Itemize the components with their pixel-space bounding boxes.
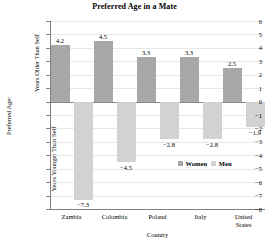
y-tick-mark <box>46 102 50 103</box>
bar-women <box>137 57 156 101</box>
y-tick-mark <box>46 48 50 49</box>
chart-legend: Women Men <box>178 159 232 168</box>
y-axis-line <box>50 21 51 210</box>
y-tick-mark <box>46 115 50 116</box>
bar-men <box>160 102 179 140</box>
bar-value-label-men: −7.3 <box>68 201 98 208</box>
bar-men <box>203 102 222 140</box>
y-tick-label: −8 <box>225 206 269 213</box>
bar-value-label-women: 3.3 <box>131 49 161 56</box>
y-tick-label: 3 <box>225 58 269 65</box>
y-tick-label: 2 <box>225 71 269 78</box>
legend-label-women: Women <box>186 160 208 167</box>
y-tick-mark <box>46 88 50 89</box>
y-tick-label: −5 <box>225 165 269 172</box>
y-tick-mark <box>46 169 50 170</box>
y-tick-mark <box>46 34 50 35</box>
y-tick-label: 0 <box>225 98 269 105</box>
x-axis-label: Country <box>50 231 265 239</box>
y-axis-label-outer: Preferred Age: <box>5 61 13 171</box>
bar-value-label-women: 4.5 <box>88 33 118 40</box>
y-tick-label: 4 <box>225 44 269 51</box>
y-tick-label: 6 <box>225 18 269 25</box>
legend-swatch-women-icon <box>178 161 183 166</box>
y-tick-mark <box>46 75 50 76</box>
legend-item-women: Women <box>178 160 207 167</box>
y-tick-mark <box>46 196 50 197</box>
y-tick-mark <box>46 61 50 62</box>
bar-men <box>74 102 93 200</box>
y-tick-mark <box>46 182 50 183</box>
y-tick-label: −4 <box>225 152 269 159</box>
y-tick-label: −6 <box>225 179 269 186</box>
y-axis-label-upper: Years Older Than Self <box>33 15 41 111</box>
bar-value-label-men: −4.5 <box>111 164 141 171</box>
y-tick-label: 1 <box>225 85 269 92</box>
y-tick-mark <box>46 128 50 129</box>
y-tick-label: −3 <box>225 138 269 145</box>
x-tick-label: UnitedStates <box>216 213 270 228</box>
y-tick-mark <box>46 21 50 22</box>
chart-title: Preferred Age in a Mate <box>0 2 269 12</box>
y-tick-label: −1 <box>225 112 269 119</box>
bar-women <box>180 57 199 101</box>
bar-women <box>51 45 70 101</box>
y-tick-label: −7 <box>225 192 269 199</box>
y-tick-mark <box>46 142 50 143</box>
y-tick-mark <box>46 209 50 210</box>
bar-value-label-women: 3.3 <box>174 49 204 56</box>
legend-swatch-men-icon <box>211 161 216 166</box>
bar-men <box>117 102 136 162</box>
bar-value-label-men: −2.8 <box>197 141 227 148</box>
y-tick-label: −2 <box>225 125 269 132</box>
y-tick-label: 5 <box>225 31 269 38</box>
bar-value-label-men: −2.8 <box>154 141 184 148</box>
bar-women <box>94 41 113 101</box>
bar-chart: Preferred Age in a Mate Preferred Age: Y… <box>0 0 269 242</box>
y-tick-mark <box>46 155 50 156</box>
